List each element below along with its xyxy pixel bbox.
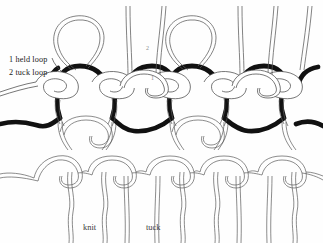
held-loop-legend-label: 1 held loop <box>9 56 48 64</box>
tuck-column-label: tuck <box>146 224 160 232</box>
bottom-interlocks <box>0 171 323 181</box>
knit-structure-diagram <box>0 0 323 243</box>
knit-column-label: knit <box>83 224 96 232</box>
bottom-course-group <box>0 156 323 243</box>
middle-white-course-group <box>58 116 296 150</box>
bottom-legs <box>68 172 298 243</box>
row2-to-row3-legs <box>55 98 288 126</box>
tuck-loop-legend-label: 2 tuck loop <box>9 69 48 77</box>
bottom-loop-heads <box>34 156 306 188</box>
tuck-loop-arcs <box>120 70 280 98</box>
tuck-loop-marker: 2 <box>146 45 149 51</box>
figure-canvas: 1 held loop 2 tuck loop 2 1 knit tuck <box>0 0 323 243</box>
held-loop-marker: 1 <box>151 75 154 81</box>
